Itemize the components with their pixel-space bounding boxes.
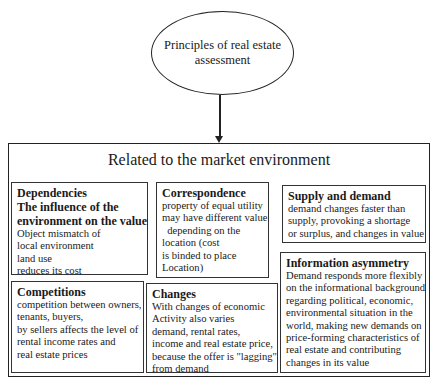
box-text: is binded to place (162, 250, 263, 262)
box-text: competition between owners, (17, 299, 138, 311)
root-node-ellipse: Principles of real estate assessment (151, 11, 294, 95)
box-text: because the offer is "lagging" (152, 351, 272, 363)
box-title: The influence of the (17, 200, 142, 214)
root-node-label: Principles of real estate assessment (162, 38, 283, 68)
box-text: changes in its value (286, 357, 420, 369)
box-text: Demand responds more flexibly (286, 270, 420, 282)
box-text: location (cost (162, 237, 263, 249)
box-text: or surplus, and changes in value (288, 228, 420, 240)
box-title: Correspondence (162, 186, 263, 200)
box-title: Dependencies (17, 186, 142, 200)
box-text: local environment (17, 240, 142, 252)
box-text: tenants, buyers, (17, 311, 138, 323)
box-text: by sellers affects the level of (17, 324, 138, 336)
box-text: regarding political, economic, (286, 295, 420, 307)
box-title: environment on the value (17, 214, 142, 228)
box-text: Object mismatch of (17, 228, 142, 240)
arrow-down-icon (215, 136, 223, 143)
group-title: Related to the market environment (8, 150, 430, 170)
box-text: property of equal utility (162, 200, 263, 212)
box-text: from demand (152, 363, 272, 375)
box-text: demand, rental rates, (152, 326, 272, 338)
box-text: income and real estate price, (152, 338, 272, 350)
box-competitions: Competitionscompetition between owners,t… (11, 281, 144, 373)
box-text: reduces its cost (17, 265, 142, 277)
box-text: price-forming characteristics of (286, 332, 420, 344)
box-text: land use (17, 253, 142, 265)
box-title: Information asymmetry (286, 256, 420, 270)
box-text: With changes of economic (152, 301, 272, 313)
box-text: world, making new demands on (286, 320, 420, 332)
box-supply-and-demand: Supply and demanddemand changes faster t… (282, 185, 426, 243)
box-text: depending on the (162, 225, 263, 237)
box-text: rental income rates and (17, 336, 138, 348)
box-text: Activity also varies (152, 313, 272, 325)
box-text: real estate and contributing (286, 344, 420, 356)
box-text: environmental situation in the (286, 307, 420, 319)
box-information-asymmetry: Information asymmetryDemand responds mor… (280, 252, 426, 373)
box-text: real estate prices (17, 349, 138, 361)
box-title: Competitions (17, 285, 138, 299)
box-dependencies: DependenciesThe influence of theenvironm… (11, 182, 148, 275)
box-text: on the informational background (286, 282, 420, 294)
box-changes: ChangesWith changes of economicActivity … (146, 283, 278, 373)
connector-arrow-line (219, 95, 221, 139)
box-text: demand changes faster than (288, 203, 420, 215)
box-text: may have different value (162, 212, 263, 224)
box-title: Changes (152, 287, 272, 301)
box-correspondence: Correspondenceproperty of equal utilitym… (156, 182, 269, 278)
box-text: Location) (162, 262, 263, 274)
box-title: Supply and demand (288, 189, 420, 203)
box-text: supply, provoking a shortage (288, 215, 420, 227)
